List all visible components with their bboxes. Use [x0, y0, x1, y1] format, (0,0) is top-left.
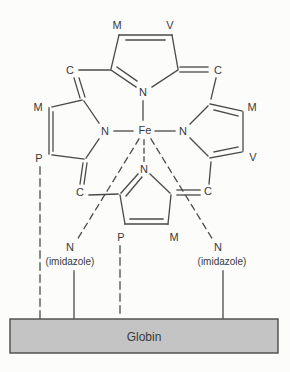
heme-globin-diagram: Globin Fe N N N N C C C C M V M P M V P … — [0, 0, 290, 372]
fe-atom-label: Fe — [139, 124, 152, 136]
methine-top-left-label: C — [66, 64, 74, 76]
substituent-vinyl-right: V — [249, 151, 257, 163]
atom-labels: Fe N N N N C C C C — [66, 64, 222, 198]
imidazole-right-nitrogen-label: N — [214, 241, 222, 253]
methine-bottom-left-label: C — [76, 186, 84, 198]
nitrogen-right-label: N — [179, 125, 187, 137]
imidazole-left-group-label: (imidazole) — [46, 256, 95, 267]
substituent-methyl-left: M — [33, 101, 42, 113]
imidazole-left-nitrogen-label: N — [66, 241, 74, 253]
imidazole-labels: N (imidazole) N (imidazole) — [46, 241, 247, 267]
substituent-vinyl-top: V — [166, 19, 174, 31]
substituent-methyl-top: M — [112, 19, 121, 31]
pyrrole-ring-left — [49, 100, 99, 159]
substituent-propionate-left: P — [35, 152, 42, 164]
globin-label: Globin — [127, 330, 162, 344]
nitrogen-bottom-label: N — [140, 163, 148, 175]
pyrrole-ring-bottom — [120, 174, 171, 224]
substituent-methyl-right: M — [247, 101, 256, 113]
nitrogen-left-label: N — [101, 125, 109, 137]
imidazole-right-group-label: (imidazole) — [198, 256, 247, 267]
nitrogen-top-label: N — [139, 86, 147, 98]
methine-top-right-label: C — [214, 64, 222, 76]
methine-bottom-right-label: C — [204, 185, 212, 197]
substituent-propionate-bottom: P — [117, 231, 124, 243]
pyrrole-ring-right — [190, 104, 243, 158]
substituent-methyl-bottom: M — [169, 231, 178, 243]
structure-canvas: Globin Fe N N N N C C C C M V M P M V P … — [0, 0, 290, 372]
pyrrole-ring-top — [111, 35, 178, 87]
